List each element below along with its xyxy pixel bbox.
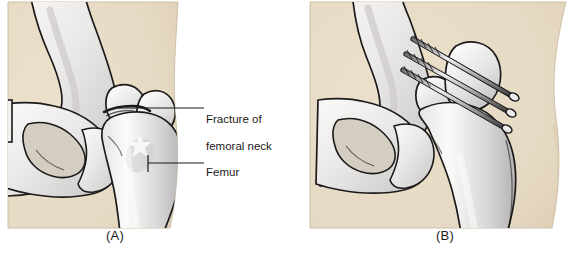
label-fracture-line2: femoral neck [206, 140, 272, 154]
label-fracture-line1: Fracture of [206, 113, 272, 127]
label-femur-line1: Femur [206, 166, 239, 180]
panel-b-caption: (B) [330, 228, 560, 243]
label-femur: Femur [206, 152, 239, 193]
panel-a-caption: (A) [0, 228, 230, 243]
figure-root: Fracture of femoral neck Femur (A) (B) [0, 0, 581, 257]
panel-b-illustration [300, 0, 581, 232]
pubic-symphysis-marker [1, 100, 12, 142]
panel-b-fixation [300, 0, 581, 232]
